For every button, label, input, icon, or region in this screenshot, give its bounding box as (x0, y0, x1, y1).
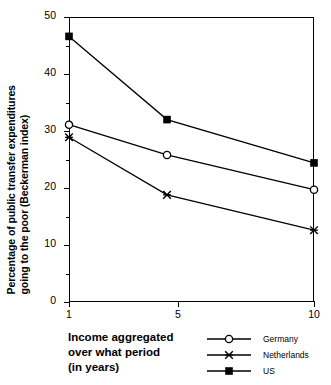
x-axis-title-line-2: over what period (68, 345, 213, 360)
plot-area: 01020304050 1510 (69, 17, 314, 302)
legend-item-us[interactable]: US (205, 363, 330, 379)
y-axis-title: Percentage of public transfer expenditur… (0, 0, 42, 312)
x-tick-label-10: 10 (308, 309, 320, 320)
series-line-germany (69, 125, 314, 190)
y-tick-label-40: 40 (44, 67, 56, 78)
data-point-netherlands-0 (65, 133, 73, 141)
y-axis-title-line-2: going to the poor (Beckerman index) (19, 114, 30, 294)
legend-glyph-open-circle-icon (225, 335, 232, 342)
legend-item-netherlands[interactable]: Netherlands (205, 347, 330, 363)
data-point-netherlands-1 (163, 191, 171, 199)
y-tick-label-50: 50 (44, 10, 56, 21)
data-point-germany-2 (310, 186, 317, 193)
data-point-germany-1 (163, 151, 170, 158)
legend-marker-open-circle-icon (205, 331, 253, 347)
legend-glyph-star-icon (225, 351, 233, 359)
legend-label-germany: Germany (253, 335, 298, 344)
chart-figure: Percentage of public transfer expenditur… (0, 0, 331, 385)
data-point-us-2 (310, 159, 318, 167)
series-line-us (69, 36, 314, 163)
chart-legend: GermanyNetherlandsUS (205, 331, 330, 379)
x-axis-title-line-3: (in years) (68, 360, 213, 375)
legend-marker-star-icon (205, 347, 253, 363)
x-axis-title: Income aggregated over what period (in y… (68, 330, 213, 376)
x-tick-label-5: 5 (175, 309, 181, 320)
legend-glyph-filled-square-icon (225, 367, 233, 375)
x-tick-10: 10 (314, 301, 315, 307)
data-point-germany-0 (65, 121, 72, 128)
data-point-us-1 (163, 116, 171, 124)
data-series-layer (69, 17, 314, 302)
y-tick-label-0: 0 (50, 295, 56, 306)
legend-label-netherlands: Netherlands (253, 351, 309, 360)
x-tick-label-1: 1 (66, 309, 72, 320)
legend-label-us: US (253, 367, 275, 376)
y-tick-label-20: 20 (44, 181, 56, 192)
y-tick-label-10: 10 (44, 238, 56, 249)
y-tick-label-30: 30 (44, 124, 56, 135)
legend-marker-filled-square-icon (205, 363, 253, 379)
x-axis-title-line-1: Income aggregated (68, 330, 213, 345)
data-point-netherlands-2 (310, 226, 318, 234)
series-line-netherlands (69, 137, 314, 230)
legend-item-germany[interactable]: Germany (205, 331, 330, 347)
data-point-us-0 (65, 33, 73, 41)
y-axis-title-line-1: Percentage of public transfer expenditur… (6, 85, 17, 294)
